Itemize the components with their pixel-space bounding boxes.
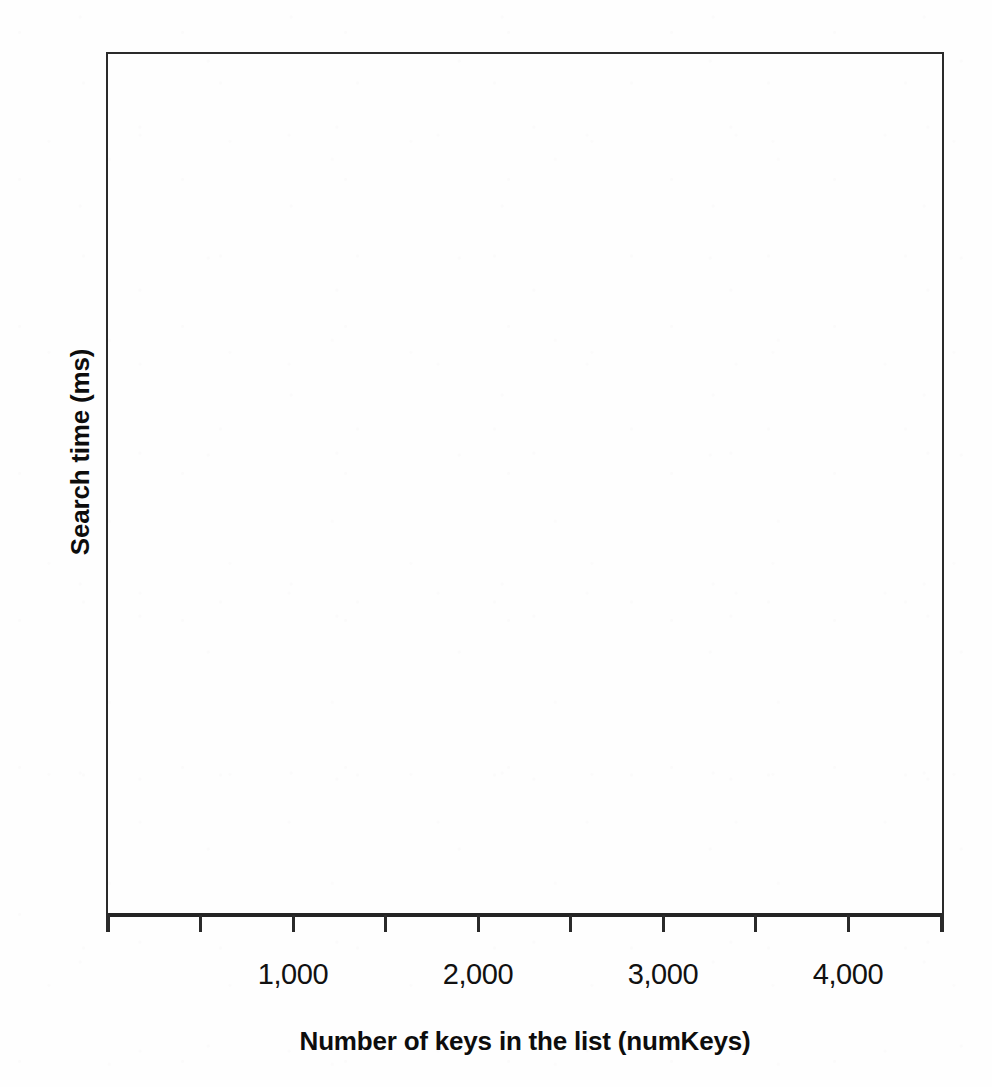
x-axis-tick [292, 915, 295, 932]
x-axis-tick [199, 915, 202, 932]
x-axis-tick [847, 915, 850, 932]
x-axis-tick [569, 915, 572, 932]
x-axis-tick-label: 3,000 [583, 958, 743, 991]
x-axis-tick [384, 915, 387, 932]
x-axis-tick-group: 1,0002,0003,0004,000 [0, 0, 992, 1087]
x-axis-tick [940, 915, 943, 932]
y-axis-title: Search time (ms) [65, 349, 96, 555]
x-axis-tick [477, 915, 480, 932]
x-axis-tick-label: 4,000 [768, 958, 928, 991]
x-axis-title: Number of keys in the list (numKeys) [106, 1026, 944, 1057]
x-axis-tick-label: 1,000 [213, 958, 373, 991]
x-axis-tick [662, 915, 665, 932]
figure-canvas: 1,0002,0003,0004,000 Number of keys in t… [0, 0, 992, 1087]
x-axis-tick [107, 915, 110, 932]
x-axis-tick-label: 2,000 [398, 958, 558, 991]
x-axis-tick [754, 915, 757, 932]
